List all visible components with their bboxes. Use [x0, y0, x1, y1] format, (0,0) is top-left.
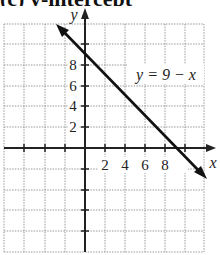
y-tick-label: 6: [69, 78, 77, 94]
grid: [4, 24, 204, 252]
graph: 2 4 6 8 2 4 6 8 y x y = 9 − x: [0, 0, 220, 255]
y-tick-labels: 2 4 6 8: [68, 56, 79, 135]
x-axis-arrow-icon: [206, 144, 216, 152]
function-line: [62, 30, 201, 173]
x-tick-label: 8: [161, 157, 169, 173]
x-tick-label: 4: [121, 157, 129, 173]
x-tick-labels: 2 4 6 8: [98, 157, 188, 173]
y-tick-label: 4: [69, 98, 77, 114]
x-tick-label: 2: [101, 157, 109, 173]
y-axis-arrow-icon: [81, 8, 89, 19]
y-tick-label: 2: [69, 119, 77, 135]
y-tick-label: 8: [69, 57, 77, 73]
x-tick-label: 6: [141, 157, 149, 173]
y-axis-label: y: [68, 6, 78, 24]
equation-label: y = 9 − x: [134, 66, 196, 84]
x-axis-label: x: [208, 154, 216, 171]
